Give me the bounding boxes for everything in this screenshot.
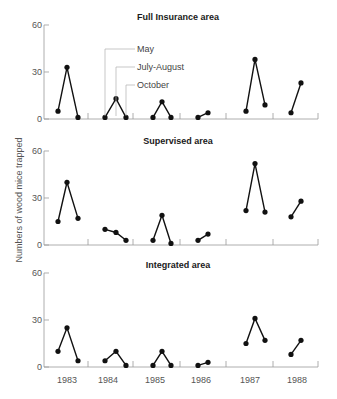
series-1984: [102, 227, 128, 243]
y-tick-label: 30: [32, 193, 42, 203]
data-point: [113, 230, 118, 235]
data-point: [205, 231, 210, 236]
series-1986: [195, 231, 210, 242]
year-label-1986: 1986: [191, 375, 211, 385]
y-tick-label: 30: [32, 67, 42, 77]
series-1986: [195, 110, 210, 120]
y-tick-label: 0: [37, 240, 42, 250]
data-point: [123, 363, 128, 368]
data-point: [55, 219, 60, 224]
x-axis-year-labels: 198319841985198619871988: [57, 375, 307, 385]
panel-title: Full Insurance area: [137, 12, 220, 22]
data-point: [55, 349, 60, 354]
data-point: [168, 363, 173, 368]
data-point: [288, 352, 293, 357]
series-line: [291, 83, 301, 113]
series-1988: [288, 80, 303, 115]
year-label-1984: 1984: [98, 375, 118, 385]
data-point: [75, 358, 80, 363]
year-label-1987: 1987: [240, 375, 260, 385]
wood-mice-chart: Full Insurance area03060Supervised area0…: [0, 0, 337, 399]
series-1988: [288, 338, 303, 357]
series-line: [246, 59, 265, 111]
data-point: [262, 102, 267, 107]
panel-title: Integrated area: [146, 260, 212, 270]
series-1987: [243, 161, 267, 215]
panel-supervised-area: Supervised area03060: [32, 136, 318, 250]
data-point: [159, 349, 164, 354]
legend-month-label: May: [137, 44, 155, 54]
series-line: [58, 182, 78, 221]
series-1983: [55, 65, 80, 120]
series-line: [153, 215, 171, 243]
data-point: [64, 180, 69, 185]
data-point: [75, 115, 80, 120]
legend-month-label: July-August: [137, 62, 185, 72]
series-1985: [150, 213, 173, 246]
data-point: [195, 115, 200, 120]
data-point: [298, 199, 303, 204]
data-point: [102, 358, 107, 363]
data-point: [252, 57, 257, 62]
series-1984: [102, 349, 128, 368]
y-axis-label: Numbers of wood mice trapped: [14, 137, 24, 262]
y-tick-label: 0: [37, 362, 42, 372]
data-point: [288, 214, 293, 219]
data-point: [102, 227, 107, 232]
year-label-1988: 1988: [287, 375, 307, 385]
data-point: [243, 341, 248, 346]
series-line: [246, 164, 265, 213]
data-point: [252, 161, 257, 166]
series-1983: [55, 325, 80, 363]
legend-month-label: October: [137, 80, 169, 90]
data-point: [150, 363, 155, 368]
month-legend-annotation: MayJuly-AugustOctober: [105, 44, 185, 116]
y-tick-label: 0: [37, 114, 42, 124]
data-point: [298, 338, 303, 343]
data-point: [123, 238, 128, 243]
y-tick-label: 60: [32, 20, 42, 30]
series-1984: [102, 96, 128, 120]
data-point: [205, 110, 210, 115]
data-point: [55, 109, 60, 114]
data-point: [243, 109, 248, 114]
data-point: [195, 363, 200, 368]
data-point: [168, 115, 173, 120]
series-1987: [243, 316, 267, 346]
data-point: [262, 338, 267, 343]
series-1985: [150, 349, 173, 368]
y-tick-label: 60: [32, 268, 42, 278]
year-label-1983: 1983: [57, 375, 77, 385]
series-line: [58, 328, 78, 361]
y-tick-label: 30: [32, 315, 42, 325]
data-point: [150, 238, 155, 243]
data-point: [298, 80, 303, 85]
data-point: [75, 216, 80, 221]
data-point: [288, 110, 293, 115]
panel-integrated-area: Integrated area03060: [32, 260, 318, 372]
data-point: [64, 65, 69, 70]
data-point: [113, 349, 118, 354]
data-point: [262, 209, 267, 214]
panel-title: Supervised area: [143, 136, 214, 146]
data-point: [252, 316, 257, 321]
data-point: [195, 238, 200, 243]
series-1985: [150, 99, 173, 120]
series-line: [291, 201, 301, 217]
data-point: [159, 99, 164, 104]
y-tick-label: 60: [32, 146, 42, 156]
data-point: [159, 213, 164, 218]
series-line: [58, 67, 78, 117]
data-point: [205, 360, 210, 365]
series-1987: [243, 57, 267, 114]
series-line: [246, 318, 265, 343]
year-label-1985: 1985: [145, 375, 165, 385]
series-1983: [55, 180, 80, 224]
data-point: [243, 208, 248, 213]
series-1988: [288, 199, 303, 220]
data-point: [168, 241, 173, 246]
data-point: [64, 325, 69, 330]
series-line: [105, 99, 126, 118]
data-point: [150, 115, 155, 120]
